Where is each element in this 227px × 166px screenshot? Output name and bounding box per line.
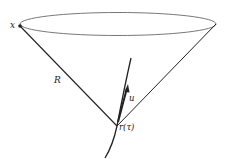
light-cone-diagram: x R u r(τ) [0,0,227,166]
point-x-label: x [10,20,15,30]
field-point-dot [18,24,22,28]
cone-right-generator-line [117,24,216,126]
cone-left-generator-line [20,26,117,126]
cone-rim-ellipse [20,13,216,36]
worldline-curve [105,58,131,158]
velocity-u-label: u [129,93,134,103]
position-r-tau-label: r(τ) [119,122,134,132]
distance-R-label: R [53,75,61,85]
